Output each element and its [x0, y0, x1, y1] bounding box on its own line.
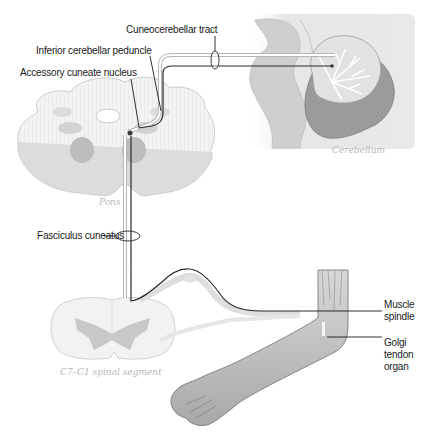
- label-golgi-line2: tendon: [384, 349, 428, 361]
- label-golgi-tendon-organ: Golgi tendon organ: [384, 337, 428, 373]
- caption-cerebellum: Cerebellum: [332, 145, 385, 155]
- pons-illustration: [18, 77, 215, 196]
- arm-illustration: [171, 270, 348, 426]
- label-muscle-spindle: Muscle spindle: [384, 299, 428, 323]
- caption-spinal-segment: C7–C1 spinal segment: [60, 367, 162, 377]
- label-golgi-line3: organ: [384, 361, 428, 373]
- label-muscle-spindle-line1: Muscle: [384, 299, 428, 311]
- label-accessory-cuneate-nucleus: Accessory cuneate nucleus: [20, 67, 137, 79]
- label-fasciculus-cuneatus: Fasciculus cuneatus: [37, 230, 124, 242]
- label-inferior-cerebellar-peduncle: Inferior cerebellar peduncle: [36, 45, 152, 57]
- label-golgi-line1: Golgi: [384, 337, 428, 349]
- label-cuneocerebellar-tract: Cuneocerebellar tract: [126, 24, 217, 36]
- caption-pons: Pons: [99, 197, 121, 207]
- label-muscle-spindle-line2: spindle: [384, 311, 428, 323]
- cerebellum-illustration: [250, 14, 415, 149]
- spinal-cord-illustration: [51, 274, 300, 359]
